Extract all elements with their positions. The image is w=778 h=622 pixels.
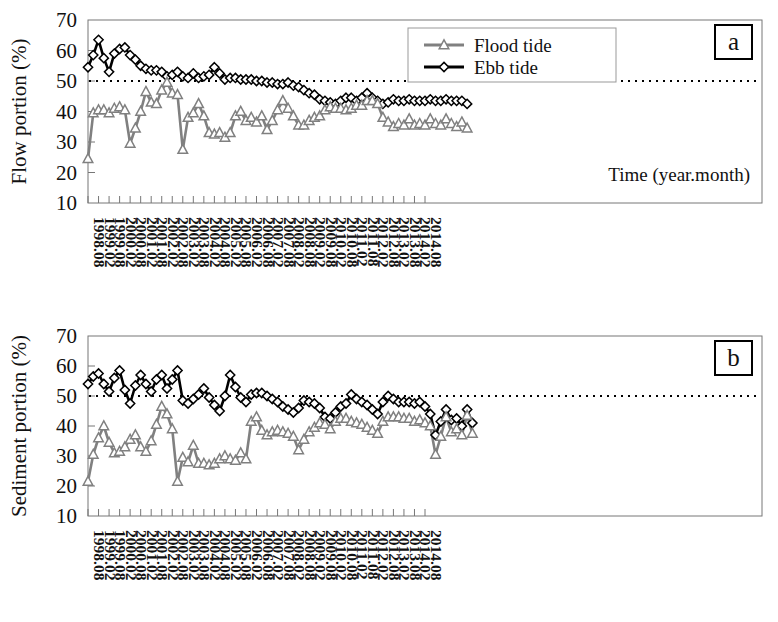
- y-tick-label: 70: [56, 324, 77, 348]
- y-tick-label: 20: [56, 474, 77, 498]
- marker-triangle: [431, 449, 441, 458]
- marker-triangle: [236, 106, 246, 115]
- marker-triangle: [141, 86, 151, 95]
- marker-triangle: [252, 412, 262, 421]
- marker-triangle: [94, 433, 104, 442]
- marker-diamond: [83, 63, 92, 72]
- marker-diamond: [126, 399, 135, 408]
- y-tick-label: 40: [56, 414, 77, 438]
- panel-letter: a: [728, 28, 739, 55]
- marker-triangle: [457, 117, 467, 126]
- y-tick-label: 10: [56, 191, 77, 215]
- y-axis-title: Flow portion (%): [7, 39, 31, 185]
- marker-triangle: [131, 123, 141, 132]
- marker-triangle: [136, 106, 146, 115]
- marker-triangle: [88, 449, 98, 458]
- marker-triangle: [131, 430, 141, 439]
- marker-diamond: [220, 391, 229, 400]
- marker-triangle: [278, 96, 288, 105]
- marker-triangle: [194, 99, 204, 108]
- chart-svg-b: 10203040506070Sediment portion (%)b1998.…: [0, 320, 778, 622]
- y-tick-label: 60: [56, 39, 77, 63]
- marker-triangle: [225, 128, 235, 137]
- y-tick-label: 50: [56, 69, 77, 93]
- marker-triangle: [167, 424, 177, 433]
- marker-triangle: [83, 476, 93, 485]
- y-tick-label: 20: [56, 161, 77, 185]
- marker-triangle: [257, 111, 267, 120]
- y-tick-label: 50: [56, 384, 77, 408]
- series-markers-flood-tide: [83, 77, 472, 162]
- x-tick-label: 2014.08: [428, 530, 445, 581]
- legend-label-ebb: Ebb tide: [474, 57, 538, 78]
- marker-triangle: [157, 401, 167, 410]
- y-axis-title: Sediment portion (%): [7, 335, 31, 517]
- marker-diamond: [231, 382, 240, 391]
- marker-triangle: [189, 440, 199, 449]
- y-tick-label: 10: [56, 504, 77, 528]
- y-tick-label: 70: [56, 8, 77, 32]
- marker-diamond: [89, 50, 98, 59]
- series-markers-flood-tide: [83, 401, 477, 485]
- marker-triangle: [173, 476, 183, 485]
- y-tick-label: 30: [56, 130, 77, 154]
- chart-panel-a: 10203040506070Flow portion (%)a1998.0819…: [0, 0, 778, 320]
- x-tick-label: 2014.08: [428, 217, 445, 268]
- marker-diamond: [120, 385, 129, 394]
- marker-diamond: [226, 370, 235, 379]
- chart-svg-a: 10203040506070Flow portion (%)a1998.0819…: [0, 0, 778, 320]
- y-tick-label: 40: [56, 100, 77, 124]
- marker-triangle: [104, 437, 114, 446]
- marker-triangle: [178, 144, 188, 153]
- marker-diamond: [99, 54, 108, 63]
- legend-label-flood: Flood tide: [474, 35, 552, 56]
- marker-triangle: [199, 111, 209, 120]
- marker-triangle: [468, 428, 478, 437]
- marker-triangle: [404, 114, 414, 123]
- panel-letter: b: [727, 344, 740, 371]
- marker-diamond: [131, 381, 140, 390]
- marker-triangle: [146, 436, 156, 445]
- marker-diamond: [104, 67, 113, 76]
- marker-triangle: [83, 154, 93, 163]
- marker-triangle: [236, 448, 246, 457]
- y-tick-label: 30: [56, 444, 77, 468]
- series-markers-ebb-tide: [83, 366, 477, 440]
- figure-root: 10203040506070Flow portion (%)a1998.0819…: [0, 0, 778, 622]
- marker-diamond: [94, 35, 103, 44]
- marker-triangle: [152, 419, 162, 428]
- marker-triangle: [125, 138, 135, 147]
- y-tick-label: 60: [56, 354, 77, 378]
- chart-panel-b: 10203040506070Sediment portion (%)b1998.…: [0, 320, 778, 622]
- x-axis-title: Time (year.month): [608, 164, 750, 186]
- marker-triangle: [99, 421, 109, 430]
